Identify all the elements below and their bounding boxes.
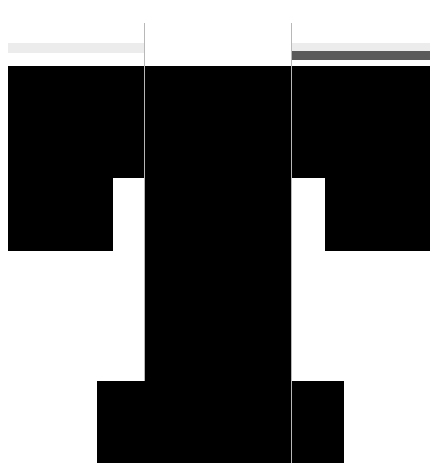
left-header-skeleton-bar: [8, 43, 144, 53]
page-description: Masked UI layout with three columns; con…: [0, 0, 1, 1]
right-header-progress-bar: [292, 51, 430, 60]
redacted-left-block: [8, 178, 113, 251]
right-header-skeleton-bar: [292, 43, 430, 51]
redacted-top-band-right: [292, 66, 430, 178]
redacted-right-block: [325, 178, 430, 251]
redacted-top-band-left: [8, 66, 144, 178]
redacted-bottom-left-block: [97, 381, 145, 463]
redacted-bottom-right-block: [292, 381, 344, 463]
redacted-center-column: [145, 66, 291, 463]
